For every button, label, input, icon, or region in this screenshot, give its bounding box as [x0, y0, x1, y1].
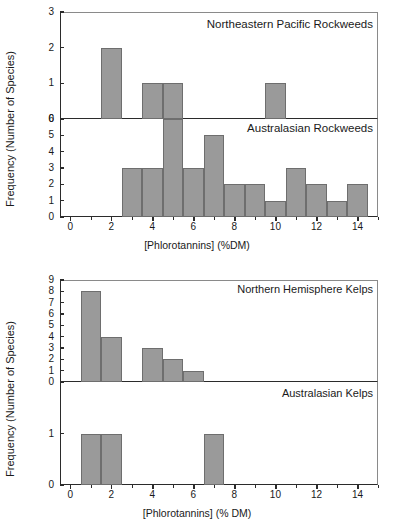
y-axis-tick-mark — [60, 325, 64, 326]
bar — [265, 201, 286, 217]
x-axis-minor-tick-mark — [337, 217, 338, 220]
bar — [204, 434, 225, 486]
y-axis-label-text: Frequency (Number of Species) — [4, 51, 16, 207]
panel-title-northeastern-pacific-rockweeds: Northeastern Pacific Rockweeds — [207, 18, 373, 30]
y-axis-tick-label: 3 — [48, 343, 60, 353]
y-axis-label-kelps: Frequency (Number of Species) — [2, 266, 18, 532]
x-axis-tick-label: 2 — [109, 222, 115, 232]
x-axis-minor-tick-mark — [132, 485, 133, 488]
x-axis-tick-label: 14 — [352, 490, 363, 500]
y-axis-tick-mark — [60, 167, 64, 168]
y-axis-tick-label: 0 — [48, 377, 60, 387]
y-axis-tick-label: 6 — [48, 114, 60, 124]
y-axis-tick-label: 5 — [48, 130, 60, 140]
y-axis-tick-mark — [60, 135, 64, 136]
bar — [122, 168, 143, 217]
x-axis-tick-label: 2 — [109, 490, 115, 500]
y-axis-tick-mark — [60, 484, 64, 485]
x-axis-minor-tick-mark — [214, 485, 215, 488]
y-axis-tick-mark — [60, 200, 64, 201]
x-axis-minor-tick-mark — [91, 485, 92, 488]
x-axis-tick-label: 6 — [191, 490, 197, 500]
y-axis-tick-mark — [60, 279, 64, 280]
x-axis-label-rockweeds: [Phlorotannins] (%DM) — [0, 239, 394, 251]
y-axis-tick-label: 3 — [48, 7, 60, 17]
panel-northern-hemisphere-kelps: Northern Hemisphere Kelps 0123456789 — [60, 280, 378, 382]
y-axis-tick-label: 2 — [48, 179, 60, 189]
y-axis-tick-mark — [60, 216, 64, 217]
y-axis-tick-label: 2 — [48, 354, 60, 364]
y-axis-tick-mark — [60, 336, 64, 337]
y-axis-tick-label: 6 — [48, 309, 60, 319]
x-axis-minor-tick-mark — [132, 217, 133, 220]
panel-title-northern-hemisphere-kelps: Northern Hemisphere Kelps — [237, 283, 373, 295]
bar — [306, 184, 327, 217]
x-axis-minor-tick-mark — [173, 217, 174, 220]
y-axis-tick-label: 7 — [48, 298, 60, 308]
bar — [245, 184, 266, 217]
x-axis-tick-label: 10 — [270, 222, 281, 232]
y-axis-tick-mark — [60, 291, 64, 292]
bar — [183, 371, 204, 382]
y-axis-tick-mark — [60, 184, 64, 185]
y-axis-tick-mark — [60, 370, 64, 371]
y-axis-tick-mark — [60, 47, 64, 48]
x-axis-minor-tick-mark — [296, 485, 297, 488]
panel-title-australasian-kelps: Australasian Kelps — [282, 387, 373, 399]
y-axis-tick-mark — [60, 302, 64, 303]
bar — [142, 168, 163, 217]
bar — [204, 135, 225, 217]
bar — [142, 83, 163, 119]
figure-rockweeds: Frequency (Number of Species) Northeaste… — [0, 0, 394, 258]
bar — [163, 83, 184, 119]
figure-kelps: Frequency (Number of Species) Northern H… — [0, 266, 394, 532]
x-axis-tick-label: 6 — [191, 222, 197, 232]
x-axis-tick-label: 0 — [67, 222, 73, 232]
x-axis-minor-tick-mark — [296, 217, 297, 220]
x-axis-label-kelps: [Phlorotannins] (% DM) — [0, 507, 394, 519]
y-axis-tick-label: 1 — [48, 196, 60, 206]
y-axis-tick-label: 9 — [48, 275, 60, 285]
x-axis-minor-tick-mark — [337, 485, 338, 488]
x-axis-tick-label: 4 — [150, 490, 156, 500]
y-axis-tick-mark — [60, 83, 64, 84]
y-axis-tick-label: 1 — [48, 78, 60, 88]
bar — [142, 348, 163, 382]
panel-northeastern-pacific-rockweeds: Northeastern Pacific Rockweeds 0123 — [60, 12, 378, 119]
y-axis-tick-label: 5 — [48, 320, 60, 330]
bar — [183, 168, 204, 217]
y-axis-label-text: Frequency (Number of Species) — [4, 321, 16, 477]
bar — [101, 48, 122, 119]
x-axis-minor-tick-mark — [173, 485, 174, 488]
bar — [101, 434, 122, 486]
bar — [327, 201, 348, 217]
x-axis-minor-tick-mark — [378, 485, 379, 488]
bar — [163, 119, 184, 217]
x-axis-tick-label: 0 — [67, 490, 73, 500]
x-axis-minor-tick-mark — [378, 217, 379, 220]
x-axis-minor-tick-mark — [214, 217, 215, 220]
y-axis-tick-mark — [60, 11, 64, 12]
y-axis-tick-label: 1 — [48, 429, 60, 439]
bar — [81, 434, 102, 486]
x-axis-minor-tick-mark — [255, 485, 256, 488]
x-axis-kelps: 02468101214 — [60, 485, 378, 501]
bar — [286, 168, 307, 217]
figure-stack: Frequency (Number of Species) Northeaste… — [0, 0, 394, 532]
x-axis-tick-label: 12 — [311, 490, 322, 500]
y-axis-tick-mark — [60, 151, 64, 152]
bar-series-northern-hemisphere-kelps — [60, 280, 378, 382]
y-axis-tick-label: 4 — [48, 147, 60, 157]
bar — [224, 184, 245, 217]
x-axis-minor-tick-mark — [91, 217, 92, 220]
x-axis-tick-label: 8 — [232, 490, 238, 500]
x-axis-rockweeds: 02468101214 — [60, 217, 378, 233]
x-axis-tick-label: 4 — [150, 222, 156, 232]
y-axis-label-rockweeds: Frequency (Number of Species) — [2, 0, 18, 258]
y-axis-tick-label: 4 — [48, 332, 60, 342]
x-axis-tick-label: 14 — [352, 222, 363, 232]
bar — [101, 337, 122, 382]
x-axis-tick-label: 12 — [311, 222, 322, 232]
y-axis-tick-mark — [60, 347, 64, 348]
y-axis-tick-mark — [60, 313, 64, 314]
